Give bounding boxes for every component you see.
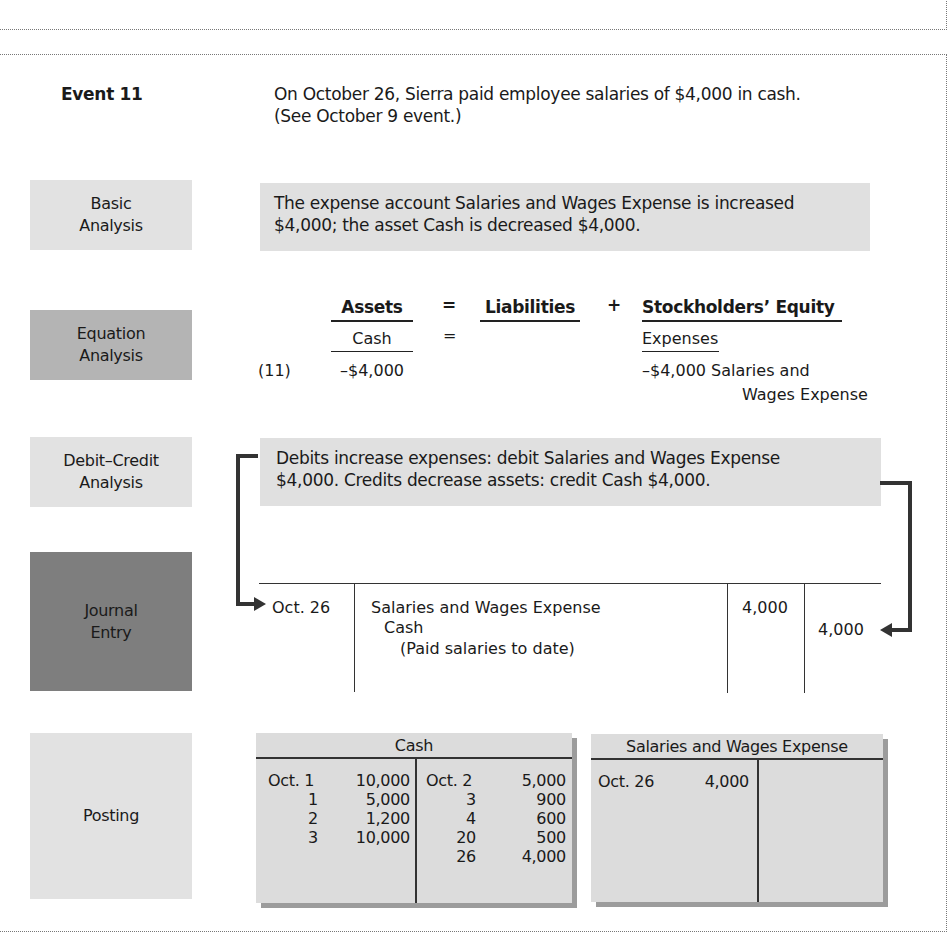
journal-credit-amount: 4,000 <box>818 620 864 639</box>
journal-entry-label-line1: Journal <box>84 600 137 622</box>
debit-credit-label-line1: Debit–Credit <box>63 450 159 472</box>
debit-credit-text-line2: $4,000. Credits decrease assets: credit … <box>276 469 710 491</box>
salaries-debit-date: Oct. 26 <box>598 772 678 791</box>
journal-explanation: (Paid salaries to date) <box>400 639 575 658</box>
journal-entry-label-line2: Entry <box>84 622 137 644</box>
debit-credit-box: Debits increase expenses: debit Salaries… <box>260 438 881 506</box>
cash-t-account: Cash Oct. 1 10,000 1 5,000 2 1,200 3 10,… <box>256 733 572 903</box>
cash-credit-date: Oct. 2 <box>426 771 484 790</box>
cash-debit-amount: 10,000 <box>326 771 410 790</box>
event-description-line1: On October 26, Sierra paid employee sala… <box>274 83 801 105</box>
journal-debit-amount: 4,000 <box>742 598 788 617</box>
expense-account-name: Wages Expense <box>742 385 868 404</box>
cash-debit-amount: 5,000 <box>326 790 410 809</box>
cash-debit-amount: 10,000 <box>326 828 410 847</box>
cash-debit-date: 1 <box>268 790 318 809</box>
cash-debit-amount: 1,200 <box>326 809 410 828</box>
cash-credit-date: 3 <box>426 790 476 809</box>
cash-credit-amount: 900 <box>486 790 566 809</box>
basic-analysis-label: Basic Analysis <box>30 180 192 250</box>
event-label: Event 11 <box>61 83 143 105</box>
cash-credit-amount: 4,000 <box>486 847 566 866</box>
equation-analysis-label-line1: Equation <box>77 323 145 345</box>
cash-credit-date: 26 <box>426 847 476 866</box>
cash-debit-date: 3 <box>268 828 318 847</box>
journal-credit-account: Cash <box>384 618 423 637</box>
basic-analysis-box: The expense account Salaries and Wages E… <box>260 183 870 251</box>
plus-sign: + <box>607 294 621 316</box>
cash-credit-amount: 500 <box>486 828 566 847</box>
salaries-t-account: Salaries and Wages Expense Oct. 26 4,000 <box>591 734 883 902</box>
posting-label-text: Posting <box>83 805 139 827</box>
liabilities-header: Liabilities <box>480 296 580 322</box>
basic-analysis-text-line1: The expense account Salaries and Wages E… <box>274 192 794 214</box>
sub-equals-sign: = <box>443 326 456 345</box>
cash-credit-amount: 600 <box>486 809 566 828</box>
assets-sub-cash: Cash <box>331 328 413 352</box>
basic-analysis-text-line2: $4,000; the asset Cash is decreased $4,0… <box>274 214 640 236</box>
journal-debit-account: Salaries and Wages Expense <box>371 598 601 617</box>
journal-entry-label: Journal Entry <box>30 552 192 691</box>
debit-credit-analysis-label: Debit–Credit Analysis <box>30 437 192 507</box>
cash-credit-date: 4 <box>426 809 476 828</box>
cash-t-account-title: Cash <box>256 733 572 759</box>
cash-credit-date: 20 <box>426 828 476 847</box>
event-number: (11) <box>258 361 291 380</box>
debit-credit-text-line1: Debits increase expenses: debit Salaries… <box>276 447 780 469</box>
basic-analysis-label-line1: Basic <box>79 193 143 215</box>
event-description-line2: (See October 9 event.) <box>274 105 461 127</box>
equity-header: Stockholders’ Equity <box>642 296 842 322</box>
debit-credit-label-line2: Analysis <box>63 472 159 494</box>
equals-sign: = <box>442 294 456 316</box>
assets-header: Assets <box>331 296 413 322</box>
equation-analysis-label: Equation Analysis <box>30 310 192 380</box>
cash-credit-amount: 5,000 <box>486 771 566 790</box>
salaries-debit-amount: 4,000 <box>676 772 749 791</box>
basic-analysis-label-line2: Analysis <box>79 215 143 237</box>
expense-change: –$4,000 Salaries and <box>642 361 810 380</box>
salaries-t-account-title: Salaries and Wages Expense <box>591 734 883 760</box>
cash-change: –$4,000 <box>331 361 413 380</box>
journal-date: Oct. 26 <box>272 598 330 617</box>
equation-analysis-label-line2: Analysis <box>77 345 145 367</box>
cash-debit-date: 2 <box>268 809 318 828</box>
equity-sub-expenses: Expenses <box>642 328 719 352</box>
previous-event-frame <box>0 0 947 30</box>
posting-label: Posting <box>30 733 192 899</box>
cash-debit-date: Oct. 1 <box>268 771 326 790</box>
